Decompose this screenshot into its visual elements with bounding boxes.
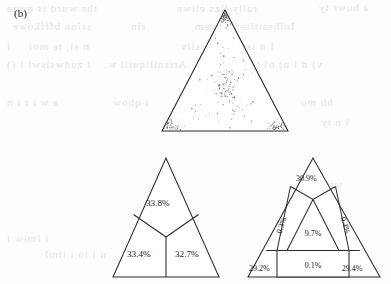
region-label-center: 9.7% [305,229,322,238]
region-label-bottom-left: 29.2% [249,264,270,273]
region-label-top: 30.9% [296,174,317,183]
region-label-bottom-center: 0.1% [305,261,322,270]
figure-panel-b: the wurd is quiterally lizs eliwea huwr … [0,0,391,284]
ternary-partition-7-regions: 30.9% 0.3% 0.4% 9.7% 29.2% 0.1% 29.4% [0,0,391,284]
region-label-bottom-right: 29.4% [342,264,363,273]
